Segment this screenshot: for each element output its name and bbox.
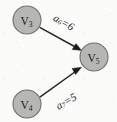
edge-a7-label: a7=5 — [54, 90, 80, 112]
edge-a6[interactable]: a6=6 — [40, 11, 81, 50]
edge-a6-label: a6=6 — [51, 11, 77, 33]
node-v5-label-subscript: 5 — [96, 56, 100, 65]
node-v5[interactable]: V5 — [80, 43, 108, 71]
node-v3[interactable]: V3 — [13, 6, 41, 34]
node-v3-label-subscript: 3 — [29, 19, 33, 28]
edge-a6-line — [40, 28, 79, 49]
node-v4-label-subscript: 4 — [29, 103, 33, 112]
node-v4[interactable]: V4 — [13, 90, 41, 118]
edge-a7[interactable]: a7=5 — [40, 67, 81, 112]
diagram-canvas: a6=6 a7=5 V3 V5 — [0, 0, 117, 122]
graph-svg: a6=6 a7=5 V3 V5 — [0, 0, 117, 122]
edge-a6-arrowhead-icon — [72, 44, 82, 51]
